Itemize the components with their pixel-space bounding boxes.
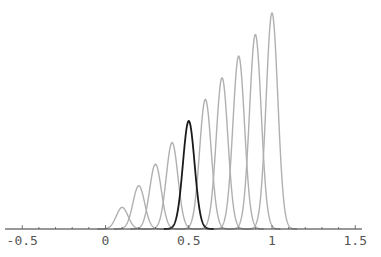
gaussian-curve-t06 <box>180 99 230 229</box>
gaussian-curve-t01 <box>97 207 147 229</box>
x-tick-label: 1 <box>268 233 276 248</box>
gaussian-curve-t09 <box>230 35 280 229</box>
x-tick-label: 0 <box>102 233 110 248</box>
gaussian-curve-t03 <box>130 164 180 229</box>
gaussian-curve-t04 <box>147 143 197 229</box>
gaussian-curve-t10 <box>247 13 297 229</box>
curve-group <box>97 13 297 229</box>
x-tick-label: 1.5 <box>344 233 367 248</box>
gaussian-curve-t05 <box>164 121 214 229</box>
x-tick-label: 0.5 <box>177 233 200 248</box>
x-tick-label: -0.5 <box>7 233 38 248</box>
gaussian-peaks-chart: -0.500.511.5 <box>0 0 381 257</box>
